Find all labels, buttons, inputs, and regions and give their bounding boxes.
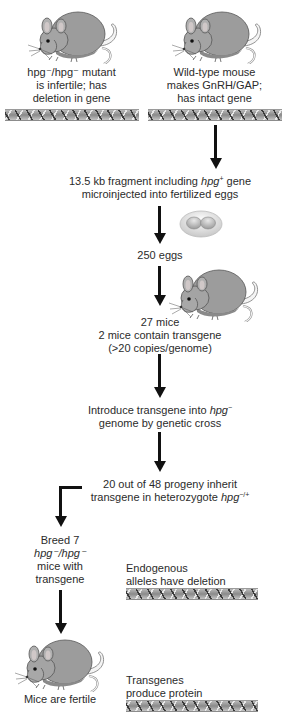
caption-line: Wild-type mouse [143, 66, 286, 79]
caption-line: has intact gene [143, 92, 286, 105]
caption-line: makes GnRH/GAP; [143, 79, 286, 92]
dna-helix-icon [126, 588, 258, 600]
wildtype-mouse-illustration [172, 4, 262, 64]
gene-name: hpg [210, 404, 228, 416]
arrowhead-icon [154, 295, 166, 306]
wildtype-mouse-caption: Wild-type mouse makes GnRH/GAP; has inta… [143, 66, 286, 105]
down-arrow-icon [158, 206, 161, 234]
text: transgene [10, 573, 110, 586]
mutant-mouse-illustration [28, 4, 118, 64]
text: 27 mice [60, 316, 260, 329]
down-arrow-icon [214, 125, 217, 159]
allele-sup: − [228, 404, 232, 411]
fertilized-egg-icon [178, 209, 224, 239]
fertile-mouse-illustration [12, 632, 108, 692]
gene-name: hpg⁻/hpg⁻ [34, 547, 86, 559]
step-breed: Breed 7 hpg⁻/hpg⁻ mice with transgene [10, 534, 110, 586]
text: Transgenes [126, 674, 202, 687]
gene-name: hpg [201, 175, 219, 187]
step-27-mice: 27 mice 2 mice contain transgene (>20 co… [60, 316, 260, 355]
transgenes-label: Transgenes produce protein [126, 674, 202, 700]
arrowhead-icon [154, 233, 166, 244]
step-genetic-cross: Introduce transgene into hpg− genome by … [60, 404, 260, 430]
arrowhead-icon [55, 516, 67, 527]
endogenous-label: Endogenous alleles have deletion [126, 562, 226, 588]
result-label: Mice are fertile [0, 693, 120, 706]
caption-line: is infertile; has [0, 79, 143, 92]
transgenic-mouse-illustration [168, 262, 260, 322]
arrowhead-icon [154, 461, 166, 472]
text: 2 mice contain transgene [60, 329, 260, 342]
step-250-eggs: 250 eggs [100, 249, 220, 262]
dna-helix-icon [148, 109, 282, 121]
elbow-arrow-icon [59, 486, 62, 518]
arrowhead-icon [210, 158, 222, 169]
text: genome by genetic cross [60, 417, 260, 430]
dna-helix-icon [126, 700, 258, 712]
text: produce protein [126, 687, 202, 700]
text: alleles have deletion [126, 575, 226, 588]
down-arrow-icon [59, 590, 62, 624]
down-arrow-icon [158, 432, 161, 462]
dna-helix-icon [5, 109, 139, 121]
text: 13.5 kb fragment including [69, 175, 201, 187]
text: transgene in heterozygote [91, 491, 221, 503]
mutant-mouse-caption: hpg⁻/hpg⁻ mutant is infertile; has delet… [0, 66, 143, 105]
caption-line: deletion in gene [0, 92, 143, 105]
text: microinjected into fertilized eggs [40, 188, 280, 201]
text: Introduce transgene into [88, 404, 210, 416]
text: Breed 7 [10, 534, 110, 547]
text: gene [224, 175, 252, 187]
text: 20 out of 48 progeny inherit [70, 478, 270, 491]
step-progeny-inherit: 20 out of 48 progeny inherit transgene i… [70, 478, 270, 504]
gene-name: hpg [221, 491, 239, 503]
down-arrow-icon [158, 354, 161, 388]
down-arrow-icon [158, 266, 161, 296]
arrowhead-icon [154, 387, 166, 398]
allele-sup: −/+ [239, 491, 249, 498]
caption-line: hpg⁻/hpg⁻ mutant [0, 66, 143, 79]
text: Endogenous [126, 562, 226, 575]
text: mice with [10, 560, 110, 573]
elbow-arrow-icon [59, 486, 82, 489]
step-microinjection: 13.5 kb fragment including hpg+ gene mic… [40, 175, 280, 201]
